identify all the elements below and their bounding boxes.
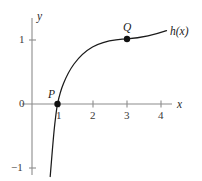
x-axis-label: x: [177, 99, 182, 111]
x-tick-label-2: 2: [90, 110, 96, 121]
function-graph-figure: y x 1 0 −1 1 2 3 4 P Q h(x): [0, 0, 202, 181]
point-Q-label: Q: [123, 22, 131, 34]
y-tick-label-minus-1: −1: [11, 162, 23, 173]
y-tick-label-0: 0: [19, 98, 25, 109]
x-tick-label-4: 4: [158, 110, 164, 121]
point-Q-marker: [124, 36, 130, 42]
function-label-h-of-x: h(x): [170, 26, 189, 38]
x-tick-label-3: 3: [124, 110, 130, 121]
point-P-marker: [54, 101, 60, 107]
x-tick-label-1: 1: [56, 110, 62, 121]
y-tick-label-1: 1: [19, 34, 25, 45]
point-P-label: P: [48, 89, 55, 101]
y-axis-label: y: [37, 11, 42, 23]
